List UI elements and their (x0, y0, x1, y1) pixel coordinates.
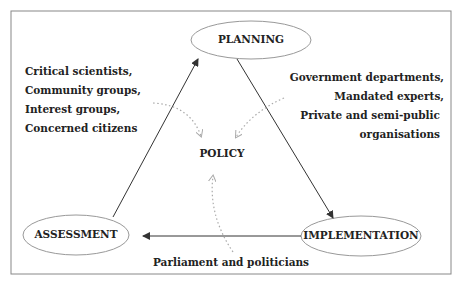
left-actor-line: Critical scientists, (25, 62, 141, 81)
dotted-arrow-bottom-to-policy (212, 176, 233, 252)
right-actor-line: Government departments, (270, 68, 444, 87)
right-actor-group: Government departments, Mandated experts… (270, 68, 444, 144)
left-actor-line: Interest groups, (25, 100, 141, 119)
bottom-actor-group: Parliament and politicians (153, 256, 309, 268)
planning-label: PLANNING (191, 33, 311, 45)
implementation-label: IMPLEMENTATION (301, 229, 421, 241)
right-actor-line: Private and semi-public (270, 106, 444, 125)
right-actor-line: organisations (270, 125, 444, 144)
left-actor-group: Critical scientists, Community groups, I… (25, 62, 141, 138)
assessment-label: ASSESSMENT (23, 228, 129, 240)
policy-label: POLICY (192, 147, 252, 159)
dotted-arrow-left-to-policy (153, 103, 201, 136)
left-actor-line: Concerned citizens (25, 119, 141, 138)
right-actor-line: Mandated experts, (270, 87, 444, 106)
left-actor-line: Community groups, (25, 81, 141, 100)
